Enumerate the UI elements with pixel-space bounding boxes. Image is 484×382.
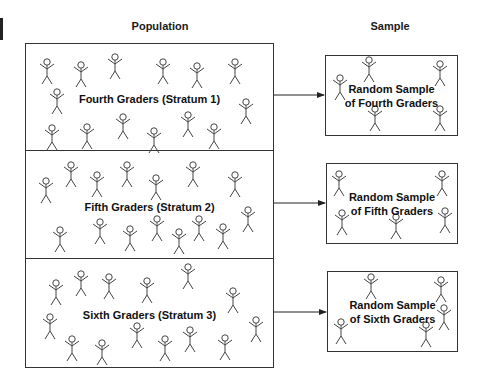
sample-3-line-2: of Sixth Graders [327, 312, 458, 326]
sample-2-label: Random Sample of Fifth Graders [326, 190, 458, 218]
sample-3-line-1: Random Sample [327, 298, 458, 312]
sample-1-label: Random Sample of Fourth Graders [325, 82, 458, 110]
stratum-3-label: Sixth Graders (Stratum 3) [25, 308, 274, 322]
stratum-2-label: Fifth Graders (Stratum 2) [25, 200, 274, 214]
sample-1-line-2: of Fourth Graders [325, 96, 458, 110]
sample-2-line-2: of Fifth Graders [326, 204, 458, 218]
sample-1-line-1: Random Sample [325, 82, 458, 96]
stratum-1-label: Fourth Graders (Stratum 1) [25, 92, 274, 106]
sample-3-label: Random Sample of Sixth Graders [327, 298, 458, 326]
sample-2-line-1: Random Sample [326, 190, 458, 204]
